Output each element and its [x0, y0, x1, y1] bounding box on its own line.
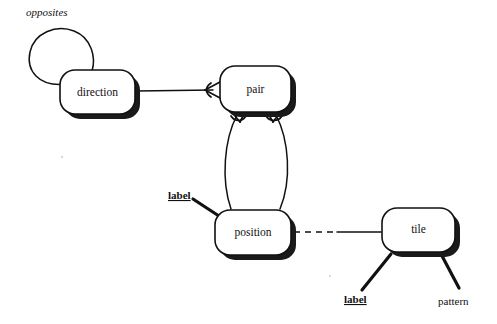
scan-speck-2	[329, 275, 331, 277]
attribute-tile-label: label	[344, 293, 367, 305]
entity-direction[interactable]: direction	[60, 70, 140, 119]
leader-tile-pattern	[441, 254, 459, 288]
entity-position-label: position	[234, 226, 271, 239]
leader-tile-label	[362, 254, 391, 290]
role-label-opposites: opposites	[26, 6, 68, 18]
entity-direction-label: direction	[77, 86, 118, 98]
entity-tile[interactable]: tile	[382, 208, 460, 257]
connector-pair-position-right	[276, 115, 288, 209]
connector-direction-pair	[136, 90, 213, 91]
attribute-position-label: label	[168, 189, 191, 201]
attribute-tile-pattern: pattern	[438, 295, 469, 307]
scan-speck	[61, 156, 63, 158]
diagram-canvas: direction pair position tile opposites l…	[0, 0, 497, 324]
connector-pair-position-left	[225, 115, 237, 209]
entity-position[interactable]: position	[215, 210, 296, 260]
entity-pair[interactable]: pair	[220, 66, 296, 117]
entity-pair-label: pair	[247, 83, 265, 96]
entity-tile-label: tile	[411, 223, 426, 235]
object-model-diagram: direction pair position tile opposites l…	[0, 0, 497, 324]
